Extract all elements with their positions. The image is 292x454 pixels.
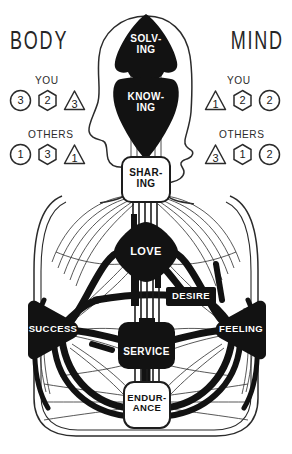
node-endurance-shape[interactable] <box>124 382 170 428</box>
right-cell-0-1[interactable]: 2 <box>230 88 255 113</box>
right-cell-1-1-value: 1 <box>239 149 245 160</box>
left-cell-0-2[interactable]: 3 <box>62 88 87 113</box>
left-cell-1-2-value: 1 <box>71 153 77 164</box>
left-cell-1-1[interactable]: 3 <box>35 142 60 167</box>
left-cell-0-0[interactable]: 3 <box>8 88 33 113</box>
left-cell-1-2[interactable]: 1 <box>62 142 87 167</box>
left-cell-0-0-value: 3 <box>17 95 23 106</box>
right-cell-1-0-value: 3 <box>212 153 218 164</box>
left-cell-0-1-value: 2 <box>44 95 50 106</box>
right-cell-0-1-value: 2 <box>239 95 245 106</box>
node-desire-shape[interactable] <box>166 287 216 306</box>
node-solving-shape[interactable] <box>115 14 178 81</box>
right-group-0-label: YOU <box>227 74 251 86</box>
left-group-1-row: 1 3 1 <box>8 142 87 167</box>
left-group-0-label: YOU <box>35 74 59 86</box>
right-group-0-row: 1 2 2 <box>203 88 282 113</box>
right-cell-1-0[interactable]: 3 <box>203 142 228 167</box>
node-knowing-shape[interactable] <box>113 77 179 160</box>
header-body: BODY <box>10 26 68 55</box>
left-cell-1-0-value: 1 <box>17 149 23 160</box>
right-cell-0-0-value: 1 <box>212 99 218 110</box>
right-cell-1-2[interactable]: 2 <box>257 142 282 167</box>
right-cell-1-2-value: 2 <box>266 149 272 160</box>
node-service-shape[interactable] <box>118 322 175 369</box>
left-cell-1-0[interactable]: 1 <box>8 142 33 167</box>
left-cell-1-1-value: 3 <box>44 149 50 160</box>
right-group-1-row: 3 1 2 <box>203 142 282 167</box>
left-group-0-row: 3 2 3 <box>8 88 87 113</box>
body-mind-diagram: BODY MIND YOU 3 2 3 OTHERS 1 <box>0 0 292 454</box>
right-cell-0-2-value: 2 <box>266 95 272 106</box>
left-group-1-label: OTHERS <box>28 128 73 140</box>
right-cell-1-1[interactable]: 1 <box>230 142 255 167</box>
diagram-canvas <box>0 0 292 454</box>
node-sharing-shape[interactable] <box>122 157 170 202</box>
header-mind: MIND <box>231 26 284 55</box>
right-group-1-label: OTHERS <box>219 128 264 140</box>
left-cell-0-1[interactable]: 2 <box>35 88 60 113</box>
right-cell-0-2[interactable]: 2 <box>257 88 282 113</box>
right-cell-0-0[interactable]: 1 <box>203 88 228 113</box>
left-cell-0-2-value: 3 <box>71 99 77 110</box>
